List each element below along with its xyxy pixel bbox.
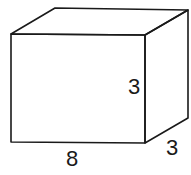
length-label: 8 bbox=[66, 148, 78, 170]
depth-label: 3 bbox=[166, 137, 178, 159]
front-face bbox=[11, 34, 145, 143]
side-face bbox=[145, 10, 188, 143]
top-face bbox=[11, 8, 188, 35]
height-label: 3 bbox=[128, 76, 140, 98]
box-diagram bbox=[0, 0, 191, 175]
